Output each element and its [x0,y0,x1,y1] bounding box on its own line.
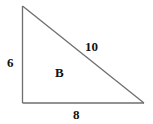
region-label: B [55,65,64,80]
triangle-diagram: 6 10 B 8 [0,0,153,124]
hypotenuse-label: 10 [85,39,98,54]
vertical-leg-label: 6 [7,55,14,70]
horizontal-leg-label: 8 [73,107,80,122]
hypotenuse [23,6,145,103]
